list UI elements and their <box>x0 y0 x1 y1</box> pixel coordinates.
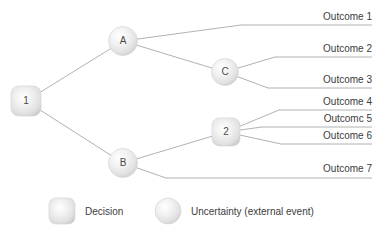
legend-decision-label: Decision <box>85 206 123 217</box>
legend-uncertainty-label: Uncertainty (external event) <box>191 206 314 217</box>
outcome-label-6: Outcome 6 <box>252 130 372 141</box>
edge-nA-to-o1 <box>137 25 241 39</box>
nodes-layer <box>11 27 240 178</box>
legend-swatch-rounded-square[interactable] <box>49 198 75 224</box>
legend-swatch-circle[interactable] <box>155 198 181 224</box>
node-2[interactable] <box>212 118 240 146</box>
outcome-label-7: Outcome 7 <box>252 163 372 174</box>
outcome-label-1: Outcome 1 <box>252 11 372 22</box>
node-c[interactable] <box>212 59 239 86</box>
outcome-label-4: Outcome 4 <box>252 96 372 107</box>
edge-nA-to-nC <box>137 45 212 68</box>
edge-n1-to-nB <box>39 109 111 155</box>
edge-nC-to-o2 <box>238 57 275 68</box>
outcome-label-5: Outcomc 5 <box>252 113 372 124</box>
edges-layer <box>39 25 281 178</box>
node-b[interactable] <box>109 149 138 178</box>
edge-nB-to-o7 <box>137 168 166 178</box>
edge-nB-to-n2 <box>137 136 213 159</box>
edge-n1-to-nA <box>39 49 111 93</box>
node-1[interactable] <box>11 86 41 116</box>
outcome-label-3: Outcome 3 <box>252 74 372 85</box>
outcome-label-2: Outcome 2 <box>252 43 372 54</box>
node-a[interactable] <box>109 27 138 56</box>
